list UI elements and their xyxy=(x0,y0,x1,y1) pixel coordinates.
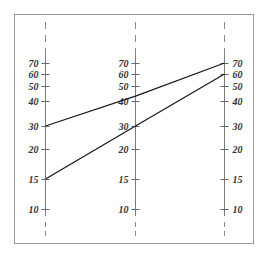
axis-left: 7060504030201510 xyxy=(28,22,50,238)
tick-label-60: 60 xyxy=(233,69,243,80)
tick-label-15: 15 xyxy=(29,174,39,185)
tick-label-10: 10 xyxy=(29,204,39,215)
tick-label-20: 20 xyxy=(118,144,129,155)
tick-label-10: 10 xyxy=(233,204,243,215)
tick-label-70: 70 xyxy=(233,58,243,69)
tick-label-70: 70 xyxy=(29,58,39,69)
tick-label-15: 15 xyxy=(119,174,129,185)
nomogram-chart: 7060504030201510706050403020151070605040… xyxy=(0,0,268,258)
tick-label-20: 20 xyxy=(232,144,243,155)
tick-label-60: 60 xyxy=(29,69,39,80)
tick-label-60: 60 xyxy=(119,69,129,80)
axes-group: 7060504030201510706050403020151070605040… xyxy=(28,22,243,238)
tick-label-40: 40 xyxy=(28,96,39,107)
tick-label-10: 10 xyxy=(119,204,129,215)
tick-label-50: 50 xyxy=(29,81,39,92)
tick-label-50: 50 xyxy=(233,81,243,92)
tick-label-20: 20 xyxy=(28,144,39,155)
tick-label-40: 40 xyxy=(232,96,243,107)
tick-label-30: 30 xyxy=(28,121,39,132)
tick-label-30: 30 xyxy=(232,121,243,132)
tick-label-50: 50 xyxy=(119,81,129,92)
tick-label-70: 70 xyxy=(119,58,129,69)
tick-label-15: 15 xyxy=(233,174,243,185)
axis-right: 7060504030201510 xyxy=(221,22,243,238)
